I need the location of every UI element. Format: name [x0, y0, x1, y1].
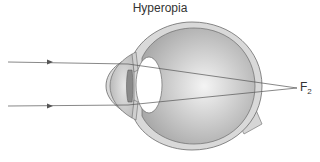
- focal-point-subscript: 2: [307, 87, 311, 96]
- lower-ray-incoming: [8, 105, 128, 106]
- eye-diagram: [0, 0, 320, 162]
- arrow-right-icon: [47, 104, 53, 109]
- focal-point-label: F2: [300, 80, 312, 96]
- arrow-right-icon: [47, 60, 53, 65]
- ray-arrowheads: [47, 60, 53, 109]
- upper-ray-incoming: [8, 62, 128, 64]
